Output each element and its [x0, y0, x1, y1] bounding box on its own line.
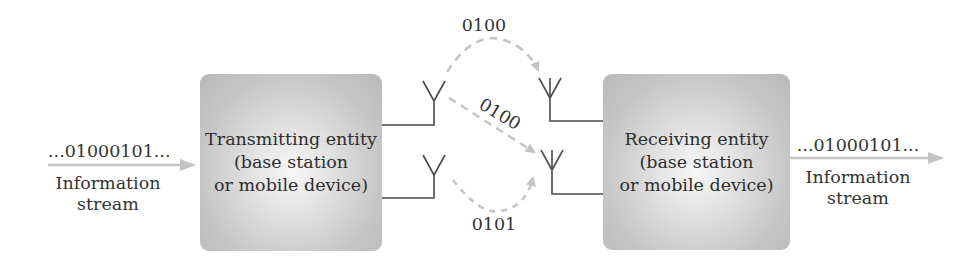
tx-antenna-upper-icon: [382, 81, 445, 125]
input-stream-caption-2: stream: [48, 193, 168, 215]
tx-label-line1: Transmitting entity: [205, 128, 377, 151]
transmitting-entity-box: Transmitting entity (base station or mob…: [200, 74, 382, 251]
path-top-arc: [447, 38, 538, 72]
output-stream-caption-2: stream: [793, 187, 923, 209]
rx-label-line1: Receiving entity: [625, 128, 769, 151]
rx-antenna-lower-icon: [541, 150, 603, 194]
rx-antenna-upper-icon: [539, 78, 603, 121]
output-stream-caption-1: Information: [793, 166, 923, 188]
bottom-arc-label: 0101: [464, 213, 524, 235]
rx-label-line2: (base station: [639, 151, 753, 174]
top-arc-label: 0100: [454, 14, 514, 36]
tx-label-line3: or mobile device): [214, 174, 368, 197]
input-stream-caption-1: Information: [48, 172, 168, 194]
receiving-entity-box: Receiving entity (base station or mobile…: [603, 74, 790, 250]
tx-antenna-lower-icon: [382, 155, 445, 198]
path-bottom-arc: [453, 178, 533, 211]
output-stream-bits: ...01000101...: [793, 134, 923, 156]
tx-label-line2: (base station: [234, 151, 348, 174]
input-stream-bits: ...01000101...: [48, 140, 168, 162]
rx-label-line3: or mobile device): [620, 174, 774, 197]
